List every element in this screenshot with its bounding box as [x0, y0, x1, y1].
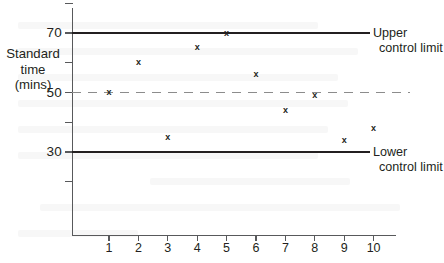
data-point-2: x: [134, 58, 143, 67]
y-tick-60: [65, 62, 73, 63]
centre-line-line: [72, 92, 410, 94]
x-tick-label-5: 5: [216, 242, 238, 255]
data-point-1: x: [105, 88, 114, 97]
bleed-row: [18, 48, 358, 55]
upper-control-limit-label: Uppercontrol limit: [373, 26, 443, 55]
y-axis-title-line-1: Standard: [2, 46, 64, 62]
bleed-row: [18, 22, 318, 29]
lower-control-limit-label-line-1: Lower: [373, 145, 443, 160]
bleed-row: [18, 152, 318, 159]
y-tick-label-text: 70: [30, 26, 62, 40]
bleed-row: [18, 126, 328, 133]
lower-control-limit-line: [72, 151, 370, 153]
control-chart: Standard time (mins) 705030 12345678910 …: [0, 0, 444, 263]
upper-control-limit-line: [72, 32, 370, 34]
x-tick-label-1: 1: [98, 242, 120, 255]
data-point-5: x: [222, 29, 231, 38]
x-tick-label-9: 9: [333, 242, 355, 255]
upper-control-limit-label-line-1: Upper: [373, 26, 443, 41]
x-tick-label-6: 6: [245, 242, 267, 255]
bleed-row: [18, 74, 338, 81]
data-point-10: x: [369, 124, 378, 133]
data-point-6: x: [252, 70, 261, 79]
x-axis-line: [72, 235, 396, 236]
data-point-4: x: [193, 43, 202, 52]
x-tick-label-8: 8: [304, 242, 326, 255]
y-tick-80: [65, 3, 73, 4]
y-tick-label-text: 30: [30, 145, 62, 159]
bleed-row: [40, 204, 400, 211]
y-axis-title-line-2: time: [2, 62, 64, 78]
data-point-8: x: [310, 91, 319, 100]
y-tick-20: [65, 181, 73, 182]
bleed-row: [150, 178, 350, 185]
y-tick-40: [65, 122, 73, 123]
lower-control-limit-label: Lowercontrol limit: [373, 145, 443, 174]
x-tick-label-4: 4: [186, 242, 208, 255]
x-tick-label-2: 2: [127, 242, 149, 255]
data-point-7: x: [281, 106, 290, 115]
y-tick-label-text: 50: [30, 86, 62, 100]
lower-control-limit-label-line-2: control limit: [373, 160, 443, 175]
bleed-row: [18, 100, 348, 107]
upper-control-limit-label-line-2: control limit: [373, 41, 443, 56]
x-tick-label-3: 3: [157, 242, 179, 255]
x-tick-label-7: 7: [274, 242, 296, 255]
data-point-3: x: [163, 133, 172, 142]
x-tick-label-10: 10: [363, 242, 385, 255]
data-point-9: x: [340, 136, 349, 145]
